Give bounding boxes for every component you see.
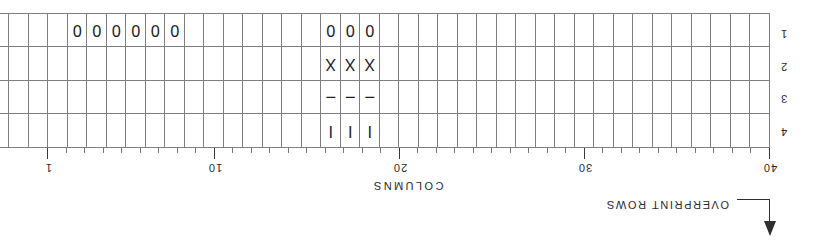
grid-cell-r4-c34[interactable]	[633, 114, 653, 148]
grid-cell-r2-c8[interactable]	[126, 47, 146, 81]
grid-cell-r3-c4[interactable]	[48, 81, 68, 115]
grid-cell-r1-c29[interactable]	[536, 14, 556, 48]
grid-cell-r2-c17[interactable]	[302, 47, 322, 81]
grid-cell-r3-c26[interactable]	[477, 81, 497, 115]
grid-cell-r2-c28[interactable]	[516, 47, 536, 81]
grid-cell-r3-c13[interactable]	[224, 81, 244, 115]
grid-cell-r4-c23[interactable]	[419, 114, 439, 148]
grid-cell-r4-c28[interactable]	[516, 114, 536, 148]
grid-cell-r1-c25[interactable]	[458, 14, 478, 48]
grid-cell-r3-c22[interactable]	[399, 81, 419, 115]
grid-cell-r1-c34[interactable]	[633, 14, 653, 48]
grid-cell-r3-c9[interactable]	[146, 81, 166, 115]
grid-cell-r1-c26[interactable]	[477, 14, 497, 48]
grid-cell-r4-c17[interactable]	[302, 114, 322, 148]
grid-cell-r3-c18[interactable]: –	[321, 81, 341, 115]
grid-cell-r2-c29[interactable]	[536, 47, 556, 81]
grid-cell-r4-c20[interactable]: I	[360, 114, 380, 148]
grid-cell-r3-c32[interactable]	[594, 81, 614, 115]
grid-cell-r4-c7[interactable]	[107, 114, 127, 148]
grid-cell-r3-c33[interactable]	[614, 81, 634, 115]
grid-cell-r2-c7[interactable]	[107, 47, 127, 81]
grid-cell-r1-c2[interactable]	[9, 14, 29, 48]
grid-cell-r3-c15[interactable]	[263, 81, 283, 115]
grid-cell-r2-c27[interactable]	[497, 47, 517, 81]
grid-cell-r3-c10[interactable]	[165, 81, 185, 115]
grid-cell-r1-c6[interactable]: 0	[87, 14, 107, 48]
grid-cell-r2-c6[interactable]	[87, 47, 107, 81]
grid-cell-r2-c37[interactable]	[692, 47, 712, 81]
grid-cell-r2-c11[interactable]	[185, 47, 205, 81]
grid-cell-r4-c9[interactable]	[146, 114, 166, 148]
grid-cell-r1-c22[interactable]	[399, 14, 419, 48]
grid-cell-r3-c1[interactable]	[0, 81, 9, 115]
grid-cell-r1-c18[interactable]: 0	[321, 14, 341, 48]
grid-cell-r3-c5[interactable]	[68, 81, 88, 115]
grid-cell-r1-c16[interactable]	[282, 14, 302, 48]
grid-cell-r1-c20[interactable]: 0	[360, 14, 380, 48]
grid-cell-r3-c11[interactable]	[185, 81, 205, 115]
grid-cell-r2-c20[interactable]: X	[360, 47, 380, 81]
grid-cell-r3-c17[interactable]	[302, 81, 322, 115]
grid-cell-r4-c27[interactable]	[497, 114, 517, 148]
grid-cell-r4-c35[interactable]	[653, 114, 673, 148]
grid-cell-r4-c21[interactable]	[380, 114, 400, 148]
grid-cell-r1-c38[interactable]	[711, 14, 731, 48]
grid-cell-r2-c12[interactable]	[204, 47, 224, 81]
grid-cell-r1-c30[interactable]	[555, 14, 575, 48]
grid-cell-r2-c4[interactable]	[48, 47, 68, 81]
grid-cell-r1-c37[interactable]	[692, 14, 712, 48]
grid-cell-r4-c19[interactable]: I	[341, 114, 361, 148]
grid-cell-r3-c24[interactable]	[438, 81, 458, 115]
grid-cell-r4-c29[interactable]	[536, 114, 556, 148]
grid-cell-r3-c16[interactable]	[282, 81, 302, 115]
grid-cell-r2-c35[interactable]	[653, 47, 673, 81]
grid-cell-r1-c5[interactable]: 0	[68, 14, 88, 48]
grid-cell-r2-c30[interactable]	[555, 47, 575, 81]
grid-cell-r1-c33[interactable]	[614, 14, 634, 48]
grid-cell-r4-c3[interactable]	[29, 114, 49, 148]
grid-cell-r3-c35[interactable]	[653, 81, 673, 115]
grid-cell-r4-c1[interactable]	[0, 114, 9, 148]
grid-cell-r2-c23[interactable]	[419, 47, 439, 81]
grid-cell-r4-c30[interactable]	[555, 114, 575, 148]
grid-cell-r2-c32[interactable]	[594, 47, 614, 81]
grid-cell-r4-c32[interactable]	[594, 114, 614, 148]
grid-cell-r2-c40[interactable]	[750, 47, 770, 81]
grid-cell-r3-c31[interactable]	[575, 81, 595, 115]
grid-cell-r2-c36[interactable]	[672, 47, 692, 81]
grid-cell-r2-c33[interactable]	[614, 47, 634, 81]
grid-cell-r1-c27[interactable]	[497, 14, 517, 48]
grid-cell-r4-c14[interactable]	[243, 114, 263, 148]
grid-cell-r2-c3[interactable]	[29, 47, 49, 81]
grid-cell-r1-c7[interactable]: 0	[107, 14, 127, 48]
grid-cell-r1-c10[interactable]: 0	[165, 14, 185, 48]
grid-cell-r2-c39[interactable]	[731, 47, 751, 81]
grid-cell-r1-c11[interactable]	[185, 14, 205, 48]
grid-cell-r3-c27[interactable]	[497, 81, 517, 115]
grid-cell-r3-c12[interactable]	[204, 81, 224, 115]
grid-cell-r2-c5[interactable]	[68, 47, 88, 81]
grid-cell-r4-c13[interactable]	[224, 114, 244, 148]
grid-cell-r2-c9[interactable]	[146, 47, 166, 81]
grid-cell-r4-c39[interactable]	[731, 114, 751, 148]
grid-cell-r1-c9[interactable]: 0	[146, 14, 166, 48]
grid-cell-r3-c38[interactable]	[711, 81, 731, 115]
grid-cell-r4-c40[interactable]	[750, 114, 770, 148]
grid-cell-r2-c18[interactable]: X	[321, 47, 341, 81]
grid-cell-r4-c24[interactable]	[438, 114, 458, 148]
grid-cell-r3-c25[interactable]	[458, 81, 478, 115]
grid-cell-r1-c8[interactable]: 0	[126, 14, 146, 48]
grid-cell-r4-c8[interactable]	[126, 114, 146, 148]
grid-cell-r2-c34[interactable]	[633, 47, 653, 81]
grid-cell-r4-c33[interactable]	[614, 114, 634, 148]
grid-cell-r2-c2[interactable]	[9, 47, 29, 81]
grid-cell-r2-c13[interactable]	[224, 47, 244, 81]
grid-cell-r2-c21[interactable]	[380, 47, 400, 81]
grid-cell-r3-c21[interactable]	[380, 81, 400, 115]
grid-cell-r1-c21[interactable]	[380, 14, 400, 48]
grid-cell-r3-c40[interactable]	[750, 81, 770, 115]
grid-cell-r3-c19[interactable]: –	[341, 81, 361, 115]
grid-cell-r4-c2[interactable]	[9, 114, 29, 148]
grid-cell-r2-c38[interactable]	[711, 47, 731, 81]
